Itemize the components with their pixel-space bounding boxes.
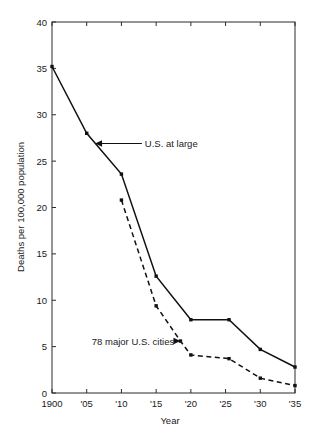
annotation-label-1: 78 major U.S. cities <box>92 336 175 347</box>
x-tick-label: '25 <box>219 398 231 409</box>
y-tick-label: 10 <box>36 295 47 306</box>
y-axis-ticks: 0510152025303540 <box>36 17 56 399</box>
y-axis-title: Deaths per 100,000 population <box>15 142 26 272</box>
data-point-marker <box>189 353 192 356</box>
data-point-marker <box>259 348 262 351</box>
data-point-marker <box>120 198 123 201</box>
y-tick-label: 35 <box>36 63 47 74</box>
x-tick-label: '20 <box>185 398 197 409</box>
y-tick-label: 40 <box>36 17 47 28</box>
x-tick-label: 1900 <box>41 398 62 409</box>
data-point-marker <box>293 365 296 368</box>
y-tick-label: 15 <box>36 248 47 259</box>
series-line-0 <box>52 67 295 368</box>
y-tick-label: 5 <box>42 341 47 352</box>
data-point-marker <box>227 318 230 321</box>
y-tick-label: 25 <box>36 156 47 167</box>
data-point-marker <box>85 132 88 135</box>
x-axis-title: Year <box>160 415 179 426</box>
data-point-marker <box>189 318 192 321</box>
data-point-marker <box>259 376 262 379</box>
data-point-marker <box>120 172 123 175</box>
data-point-marker <box>227 357 230 360</box>
y-tick-label: 20 <box>36 202 47 213</box>
y-tick-label: 0 <box>42 388 47 399</box>
series-line-1 <box>121 200 295 385</box>
line-chart: 0510152025303540 1900'05'10'15'20'25'30'… <box>0 0 315 438</box>
x-tick-label: '10 <box>115 398 127 409</box>
annotation-label-0: U.S. at large <box>145 138 198 149</box>
data-point-marker <box>154 274 157 277</box>
x-tick-label: '35 <box>289 398 301 409</box>
data-point-marker <box>293 384 296 387</box>
x-tick-label: '05 <box>81 398 93 409</box>
data-point-marker <box>50 65 53 68</box>
y-tick-label: 30 <box>36 109 47 120</box>
x-tick-label: '15 <box>150 398 162 409</box>
x-tick-label: '30 <box>254 398 266 409</box>
chart-container: 0510152025303540 1900'05'10'15'20'25'30'… <box>0 0 315 438</box>
data-point-marker <box>154 304 157 307</box>
